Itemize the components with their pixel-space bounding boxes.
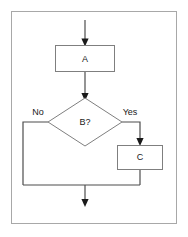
- flowchart-svg: A B? No Yes C: [0, 0, 188, 237]
- node-a-label: A: [82, 54, 88, 64]
- edge-label-yes: Yes: [123, 107, 138, 117]
- node-c-label: C: [137, 152, 144, 162]
- node-process-c[interactable]: C: [118, 146, 163, 170]
- flowchart-canvas: A B? No Yes C: [0, 0, 188, 237]
- edge-label-no: No: [32, 107, 44, 117]
- node-process-a[interactable]: A: [56, 46, 115, 72]
- node-b-label: B?: [79, 117, 90, 127]
